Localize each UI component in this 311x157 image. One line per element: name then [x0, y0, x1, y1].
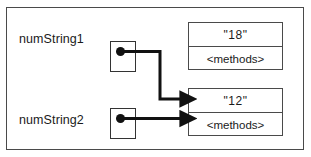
variable-label-numstring1: numString1 [19, 32, 84, 46]
pointer-dot-icon [116, 114, 125, 123]
object-reference-diagram: numString1 numString2 "18" <methods> "12… [0, 0, 311, 157]
string-object-12: "12" <methods> [188, 88, 283, 136]
object-value-18: "18" [189, 23, 282, 47]
variable-label-numstring2: numString2 [19, 113, 84, 127]
object-methods-12: <methods> [189, 113, 282, 137]
reference-box-numstring1 [110, 41, 136, 72]
reference-box-numstring2 [110, 108, 136, 139]
object-value-12: "12" [189, 89, 282, 113]
object-methods-18: <methods> [189, 47, 282, 71]
string-object-18: "18" <methods> [188, 22, 283, 70]
pointer-dot-icon [116, 47, 125, 56]
